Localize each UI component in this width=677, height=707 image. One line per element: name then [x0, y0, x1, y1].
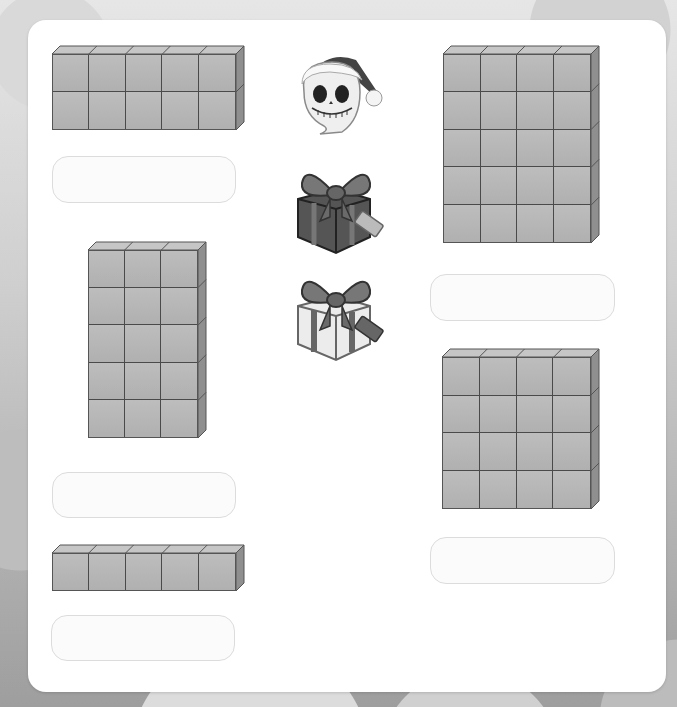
- cube: [53, 554, 89, 590]
- cube: [53, 55, 89, 92]
- cube: [89, 288, 125, 325]
- cube: [162, 92, 198, 129]
- cube: [553, 433, 590, 471]
- cube: [481, 55, 518, 92]
- worksheet-card: [28, 20, 666, 692]
- cube: [553, 471, 590, 509]
- answer-input-1[interactable]: [52, 156, 236, 203]
- cube-array-5x1: [52, 545, 244, 591]
- cube: [125, 325, 161, 362]
- cube: [554, 167, 591, 204]
- cube: [517, 130, 554, 167]
- cube: [161, 288, 197, 325]
- cube: [444, 55, 481, 92]
- cube: [517, 433, 554, 471]
- cube-front-face: [88, 250, 198, 438]
- answer-input-2[interactable]: [52, 472, 236, 518]
- cube: [199, 92, 235, 129]
- cube: [554, 130, 591, 167]
- cube: [517, 55, 554, 92]
- cube: [517, 471, 554, 509]
- cube: [480, 396, 517, 434]
- cube: [553, 358, 590, 396]
- cube-array-4x4: [442, 349, 599, 509]
- cube: [89, 92, 125, 129]
- cube: [161, 363, 197, 400]
- cube: [161, 400, 197, 437]
- cube-front-face: [52, 553, 236, 591]
- cube: [443, 433, 480, 471]
- cube: [444, 167, 481, 204]
- cube: [553, 396, 590, 434]
- cube: [481, 205, 518, 242]
- cube: [89, 325, 125, 362]
- cube: [443, 396, 480, 434]
- cube: [517, 167, 554, 204]
- cube: [162, 55, 198, 92]
- answer-input-5[interactable]: [430, 537, 615, 584]
- cube-array-3x5: [88, 242, 206, 438]
- answer-input-4[interactable]: [430, 274, 615, 321]
- cube: [162, 554, 198, 590]
- cube: [480, 471, 517, 509]
- cube: [480, 358, 517, 396]
- cube: [199, 554, 235, 590]
- cube: [443, 358, 480, 396]
- cube: [554, 205, 591, 242]
- cube: [517, 92, 554, 129]
- cube: [126, 554, 162, 590]
- cube: [89, 55, 125, 92]
- answer-input-3[interactable]: [51, 615, 235, 661]
- cube: [480, 433, 517, 471]
- cube: [481, 130, 518, 167]
- cube: [199, 55, 235, 92]
- cube: [517, 358, 554, 396]
- cube: [481, 92, 518, 129]
- cube: [554, 92, 591, 129]
- cube: [444, 130, 481, 167]
- cube: [517, 205, 554, 242]
- cube: [554, 55, 591, 92]
- light-gift-box-icon: [286, 272, 386, 364]
- cube: [89, 251, 125, 288]
- cube: [125, 400, 161, 437]
- cube: [125, 251, 161, 288]
- cube: [89, 400, 125, 437]
- cube: [125, 288, 161, 325]
- cube-front-face: [52, 54, 236, 130]
- cube: [161, 325, 197, 362]
- cube: [481, 167, 518, 204]
- skeleton-santa-hat-icon: [290, 50, 386, 142]
- cube: [126, 92, 162, 129]
- cube: [89, 363, 125, 400]
- cube-array-5x2: [52, 46, 244, 130]
- cube: [443, 471, 480, 509]
- cube-array-4x5: [443, 46, 599, 243]
- cube: [53, 92, 89, 129]
- cube: [517, 396, 554, 434]
- cube: [125, 363, 161, 400]
- cube: [126, 55, 162, 92]
- dark-gift-box-icon: [286, 165, 386, 257]
- cube-front-face: [443, 54, 591, 243]
- cube-front-face: [442, 357, 591, 509]
- cube: [444, 205, 481, 242]
- cube: [89, 554, 125, 590]
- cube: [444, 92, 481, 129]
- cube: [161, 251, 197, 288]
